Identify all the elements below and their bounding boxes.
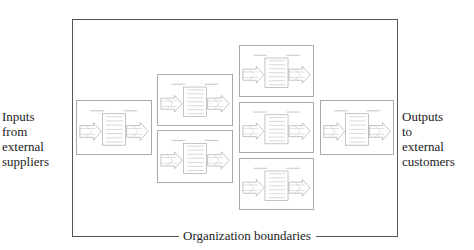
process-icon	[240, 159, 313, 209]
process-box	[76, 100, 152, 155]
process-icon	[240, 46, 313, 96]
inputs-label-line: external	[2, 139, 49, 154]
inputs-label: Inputs from external suppliers	[2, 109, 49, 169]
inputs-label-line: Inputs	[2, 109, 49, 124]
outputs-label: Outputs to external customers	[402, 109, 455, 169]
outputs-label-line: to	[402, 124, 455, 139]
process-box	[320, 100, 394, 155]
inputs-label-line: suppliers	[2, 154, 49, 169]
boundary-line-left	[72, 236, 179, 237]
process-icon	[321, 101, 393, 154]
process-box	[157, 130, 233, 183]
process-icon	[77, 101, 151, 154]
boundary-line-right	[316, 236, 398, 237]
process-box	[157, 74, 233, 126]
process-icon	[240, 103, 313, 152]
process-icon	[158, 75, 232, 125]
outputs-label-line: external	[402, 139, 455, 154]
process-box	[239, 158, 314, 210]
inputs-label-line: from	[2, 124, 49, 139]
organization-boundaries-label: Organization boundaries	[183, 228, 311, 244]
process-icon	[158, 131, 232, 182]
outputs-label-line: Outputs	[402, 109, 455, 124]
process-box	[239, 45, 314, 97]
outputs-label-line: customers	[402, 154, 455, 169]
process-box	[239, 102, 314, 153]
